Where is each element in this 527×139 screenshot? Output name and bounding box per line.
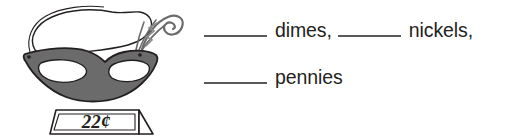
mask-left-eyelet xyxy=(27,55,31,59)
blank-nickels[interactable] xyxy=(338,35,401,37)
mask-hood xyxy=(32,10,151,54)
blank-pennies[interactable] xyxy=(204,82,267,84)
answer-prompt: dimes, nickels, pennies xyxy=(204,21,527,121)
price-tag-value: 22¢ xyxy=(81,111,111,132)
prompt-line-1: dimes, nickels, xyxy=(204,21,527,41)
unit-label-nickels: nickels, xyxy=(409,21,473,41)
worksheet-item: 22¢ dimes, nickels, pennies xyxy=(0,0,527,139)
unit-label-pennies: pennies xyxy=(275,68,343,88)
mask-right-eyelet xyxy=(138,53,142,57)
prompt-line-2: pennies xyxy=(204,68,527,88)
masquerade-mask-illustration: 22¢ xyxy=(8,2,188,139)
blank-dimes[interactable] xyxy=(204,35,267,37)
unit-label-dimes: dimes, xyxy=(275,21,332,41)
